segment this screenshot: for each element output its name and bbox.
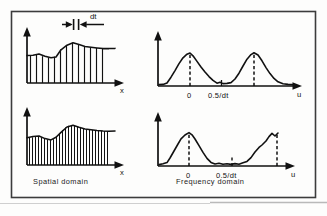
caption-spatial-domain: Spatial domain xyxy=(33,177,88,186)
tick-label-zero: 0 xyxy=(187,91,191,100)
y-axis-arrowhead xyxy=(154,31,162,41)
spectrum-curve xyxy=(159,53,293,85)
x-axis-label: x xyxy=(120,86,124,95)
signal-envelope xyxy=(27,43,115,58)
x-axis-label: x xyxy=(120,168,124,177)
u-axis-label: u xyxy=(297,90,301,99)
u-axis-label: u xyxy=(291,170,295,179)
chart-frequency-fine: u 0 0.5/dt xyxy=(154,112,295,180)
figure-border xyxy=(12,12,316,198)
y-axis-arrowhead xyxy=(23,107,31,117)
sample-bars xyxy=(31,43,103,83)
sample-interval-annotation: dt xyxy=(62,12,104,30)
y-axis-arrowhead xyxy=(154,112,162,122)
chart-frequency-coarse: u 0 0.5/dt xyxy=(154,31,302,100)
chart-spatial-coarse: x xyxy=(23,12,124,95)
figure-root: x xyxy=(0,0,327,216)
chart-spatial-fine: x xyxy=(23,107,124,177)
sample-interval-label: dt xyxy=(90,12,97,21)
spectrum-curve xyxy=(159,133,278,165)
y-axis-arrowhead xyxy=(23,27,31,37)
tick-label-nyquist: 0.5/dt xyxy=(208,91,229,100)
caption-frequency-domain: Frequency domain xyxy=(176,177,244,186)
